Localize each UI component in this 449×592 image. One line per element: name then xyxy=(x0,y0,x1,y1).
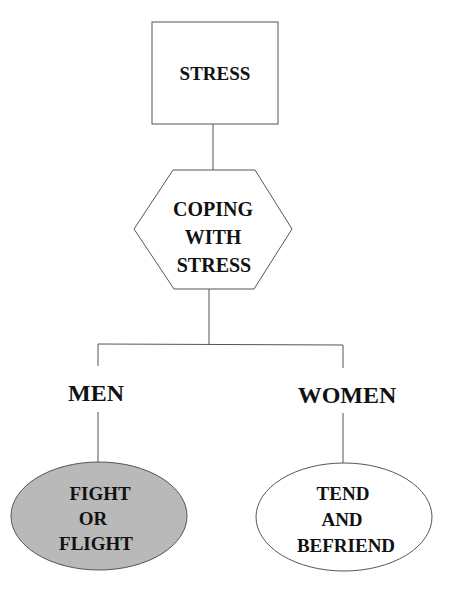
coping-label-line-2: WITH xyxy=(185,226,242,248)
coping-label-line-3: STRESS xyxy=(177,254,252,276)
stress-label: STRESS xyxy=(180,63,251,84)
or-label: OR xyxy=(79,508,108,529)
flight-label: FLIGHT xyxy=(59,533,133,554)
tend-label: TEND xyxy=(317,483,370,504)
coping-label-line-1: COPING xyxy=(173,198,253,220)
befriend-label: BEFRIEND xyxy=(297,535,395,556)
fight-or-flight-node: FIGHT OR FLIGHT xyxy=(11,462,187,570)
fight-label: FIGHT xyxy=(69,483,131,504)
diagram-canvas: STRESS COPING WITH STRESS MEN WOMEN FIGH… xyxy=(0,0,449,592)
stress-node: STRESS xyxy=(152,22,278,124)
tend-and-befriend-node: TEND AND BEFRIEND xyxy=(256,463,432,571)
men-label: MEN xyxy=(68,380,125,406)
and-label: AND xyxy=(321,509,362,530)
connector-horizontal xyxy=(98,344,343,345)
coping-node: COPING WITH STRESS xyxy=(134,170,292,289)
women-label: WOMEN xyxy=(298,382,397,408)
